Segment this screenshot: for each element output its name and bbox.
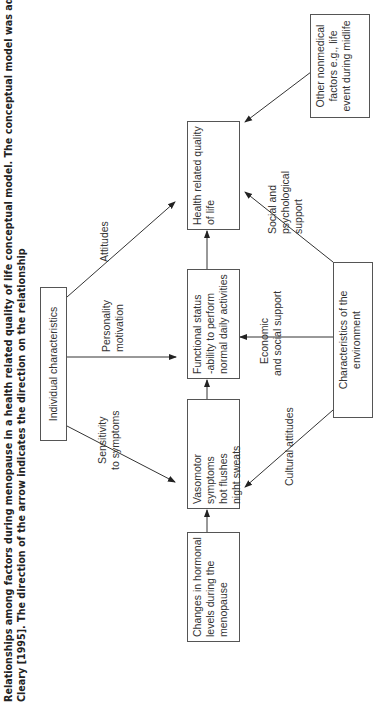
label-attitudes: Attitudes	[98, 221, 111, 262]
label-personality-motivation: Personality motivation	[100, 300, 126, 352]
arrow-other-to-hrqol	[245, 72, 311, 122]
node-environment-characteristics: Characteristics of the environment	[333, 262, 373, 418]
node-health-related-quality-of-life: Health related quality of life	[187, 121, 240, 230]
node-hormonal-changes: Changes in hormonal levels during the me…	[187, 532, 240, 642]
label-sensitivity-to-symptoms: Sensitivity to symptoms	[96, 410, 122, 470]
label-economic-social-support: Economic and social support	[258, 291, 284, 376]
label-cultural-attitudes: Cultural attitudes	[283, 407, 296, 486]
node-vasomotor-symptoms: Vasomotor symptoms hot flushes night swe…	[187, 399, 240, 509]
label-social-psychological-support: Social and psychological support	[266, 171, 305, 234]
node-functional-status: Functional status -ability to perform no…	[187, 269, 240, 379]
node-other-nonmedical-factors: Other nonmedical factors e.g., life even…	[310, 14, 370, 118]
node-individual-characteristics: Individual characteristics	[40, 287, 67, 441]
arrow-individual-to-hrqol	[67, 202, 175, 297]
